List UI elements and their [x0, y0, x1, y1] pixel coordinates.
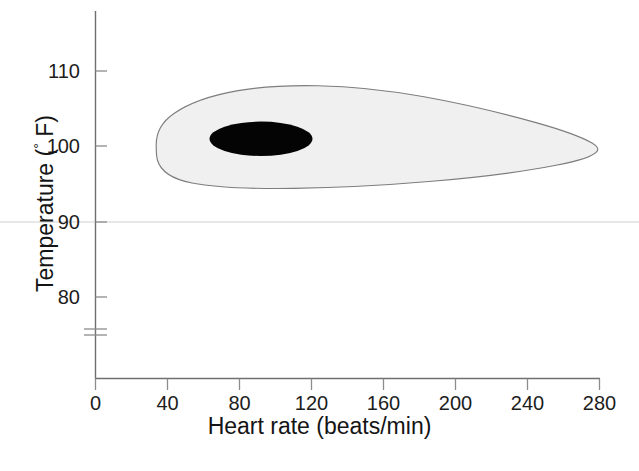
y-tick-marks: [96, 71, 108, 297]
y-axis-title-prefix: Temperature (: [32, 149, 58, 292]
x-tick-label-200: 200: [425, 392, 486, 415]
y-axis-title-suffix: F): [32, 115, 58, 143]
x-axis-title: Heart rate (beats/min): [0, 413, 639, 440]
x-tick-label-0: 0: [65, 392, 126, 415]
region-typical-range: [210, 122, 313, 156]
x-tick-marks: [96, 379, 600, 391]
x-tick-label-120: 120: [281, 392, 342, 415]
chart-figure: 110 100 90 80 0 40 80 120 160 200 240 28…: [0, 0, 639, 471]
x-tick-label-280: 280: [569, 392, 630, 415]
x-tick-label-240: 240: [497, 392, 558, 415]
x-tick-label-40: 40: [137, 392, 198, 415]
y-axis-title: Temperature (° F): [32, 54, 59, 354]
x-tick-label-160: 160: [353, 392, 414, 415]
x-tick-label-80: 80: [209, 392, 270, 415]
degree-symbol-icon: °: [31, 143, 47, 149]
